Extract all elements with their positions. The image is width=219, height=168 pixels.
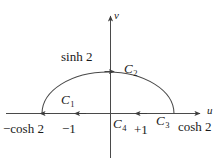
cosh2-tick-label: cosh 2 xyxy=(178,120,212,133)
curve-label-c4: C4 xyxy=(113,117,126,130)
curve-label-c2-index: 2 xyxy=(133,68,137,78)
complex-plane-figure: v u sinh 2 −cosh 2 −1 +1 cosh 2 C1 C2 C3… xyxy=(0,0,219,168)
curve-label-c1-letter: C xyxy=(61,92,70,107)
curve-label-c3-letter: C xyxy=(156,113,165,128)
curve-label-c3-index: 3 xyxy=(165,120,169,130)
curve-label-c4-index: 4 xyxy=(122,123,126,133)
curve-label-c1-index: 1 xyxy=(70,99,74,109)
neg-one-tick-label: −1 xyxy=(62,122,76,135)
v-axis-label: v xyxy=(114,10,119,21)
u-axis-label: u xyxy=(207,105,213,116)
curve-label-c3: C3 xyxy=(156,114,169,127)
curve-label-c1: C1 xyxy=(61,93,74,106)
figure-canvas xyxy=(0,0,219,168)
plus-one-tick-label: +1 xyxy=(134,123,148,136)
curve-label-c2: C2 xyxy=(124,62,137,75)
neg-cosh2-tick-label: −cosh 2 xyxy=(3,122,44,135)
curve-label-c2-letter: C xyxy=(124,61,133,76)
sinh2-label: sinh 2 xyxy=(61,50,92,63)
curve-label-c4-letter: C xyxy=(113,116,122,131)
